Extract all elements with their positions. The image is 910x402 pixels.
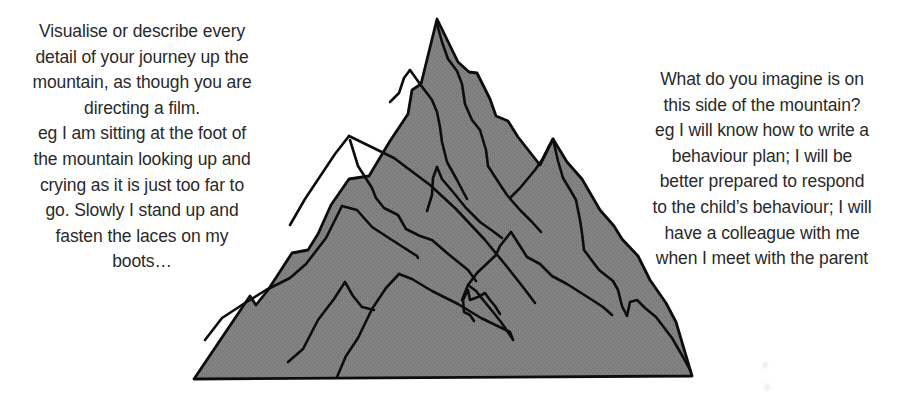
text-line: directing a film. [8,96,276,122]
text-line: to the child’s behaviour; I will [624,195,900,221]
text-line: boots… [8,249,276,275]
text-line: the mountain looking up and [8,147,276,173]
text-line: detail of your journey up the [8,45,276,71]
text-line: eg I am sitting at the foot of [8,121,276,147]
ridge-line [390,70,410,102]
text-line: go. Slowly I stand up and [8,198,276,224]
text-line: better prepared to respond [624,169,900,195]
text-line: have a colleague with me [624,221,900,247]
scan-artifact [765,384,769,390]
text-line: eg I will know how to write a [624,118,900,144]
text-line: this side of the mountain? [624,93,900,119]
text-line: fasten the laces on my [8,224,276,250]
text-line: mountain, as though you are [8,70,276,96]
text-line: behaviour plan; I will be [624,144,900,170]
text-line: What do you imagine is on [624,67,900,93]
text-line: Visualise or describe every [8,19,276,45]
left-instruction-text: Visualise or describe every detail of yo… [8,19,276,275]
text-line: when I meet with the parent [624,246,900,272]
scan-artifact [763,362,767,368]
right-instruction-text: What do you imagine is on this side of t… [624,67,900,272]
text-line: crying as it is just too far to [8,173,276,199]
